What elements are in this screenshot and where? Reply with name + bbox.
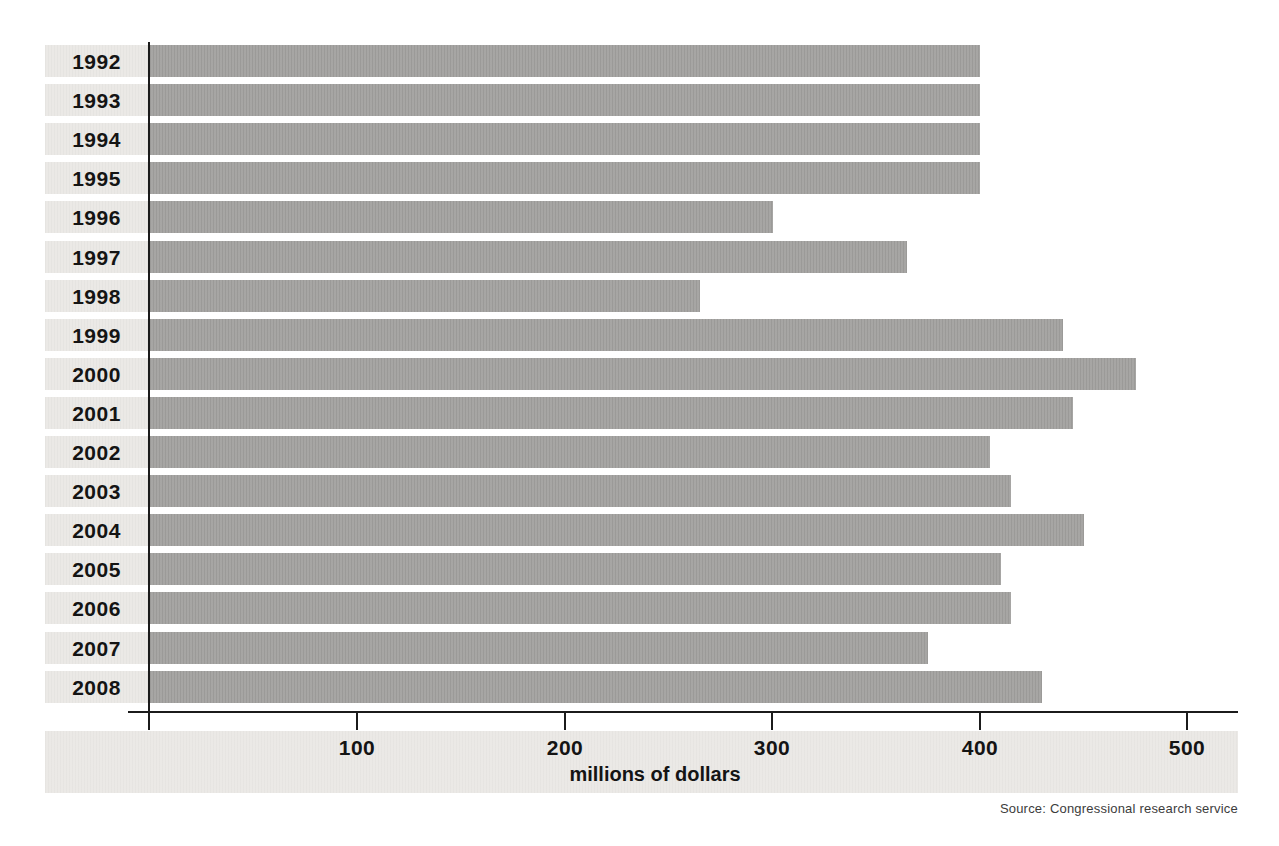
year-label: 2006 [72, 597, 121, 619]
bar-2000 [150, 358, 1136, 390]
x-tick-label-400: 400 [962, 736, 999, 760]
year-label: 2002 [72, 441, 121, 463]
x-tick-label-300: 300 [754, 736, 791, 760]
year-label: 2004 [72, 519, 121, 541]
bar-2003 [150, 475, 1011, 507]
year-label-band: 1992 [45, 45, 148, 77]
bar-chart: 1992199319941995199619971998199920002001… [0, 0, 1279, 846]
bar-2001 [150, 397, 1073, 429]
x-axis-title: millions of dollars [569, 763, 740, 786]
x-tick-label-500: 500 [1169, 736, 1206, 760]
year-label-band: 2001 [45, 397, 148, 429]
year-label-band: 1995 [45, 162, 148, 194]
x-tick-500 [1186, 713, 1188, 730]
year-label: 1997 [72, 246, 121, 268]
bar-1998 [150, 280, 700, 312]
bar-1994 [150, 123, 980, 155]
bar-2005 [150, 553, 1001, 585]
bar-1996 [150, 201, 773, 233]
year-label: 2000 [72, 363, 121, 385]
source-note: Source: Congressional research service [1000, 801, 1238, 816]
year-label-band: 2004 [45, 514, 148, 546]
year-label-band: 1999 [45, 319, 148, 351]
year-label-band: 2003 [45, 475, 148, 507]
year-label: 1994 [72, 128, 121, 150]
year-label: 2007 [72, 637, 121, 659]
x-axis-line [128, 711, 1238, 713]
year-label-band: 2000 [45, 358, 148, 390]
year-label: 2008 [72, 676, 121, 698]
bar-1993 [150, 84, 980, 116]
year-label-band: 2006 [45, 592, 148, 624]
x-tick-400 [979, 713, 981, 730]
bar-2006 [150, 592, 1011, 624]
year-label: 1996 [72, 206, 121, 228]
bar-2002 [150, 436, 990, 468]
bar-2008 [150, 671, 1042, 703]
year-label-band: 2002 [45, 436, 148, 468]
year-label-band: 1998 [45, 280, 148, 312]
year-label-band: 1997 [45, 241, 148, 273]
year-label-band: 1996 [45, 201, 148, 233]
year-label: 1998 [72, 285, 121, 307]
year-label: 2003 [72, 480, 121, 502]
x-tick-200 [564, 713, 566, 730]
bar-1997 [150, 241, 907, 273]
bar-2007 [150, 632, 928, 664]
x-tick-label-200: 200 [547, 736, 584, 760]
year-label-band: 1993 [45, 84, 148, 116]
year-label: 1999 [72, 324, 121, 346]
x-tick-300 [771, 713, 773, 730]
year-label: 2001 [72, 402, 121, 424]
year-label: 2005 [72, 558, 121, 580]
year-label-band: 2007 [45, 632, 148, 664]
year-label: 1992 [72, 50, 121, 72]
year-label-band: 2005 [45, 553, 148, 585]
bar-1999 [150, 319, 1063, 351]
year-label: 1995 [72, 167, 121, 189]
bar-1995 [150, 162, 980, 194]
bar-1992 [150, 45, 980, 77]
bar-2004 [150, 514, 1084, 546]
x-tick-100 [356, 713, 358, 730]
x-tick-label-100: 100 [339, 736, 376, 760]
year-label-band: 1994 [45, 123, 148, 155]
year-label-band: 2008 [45, 671, 148, 703]
year-label: 1993 [72, 89, 121, 111]
